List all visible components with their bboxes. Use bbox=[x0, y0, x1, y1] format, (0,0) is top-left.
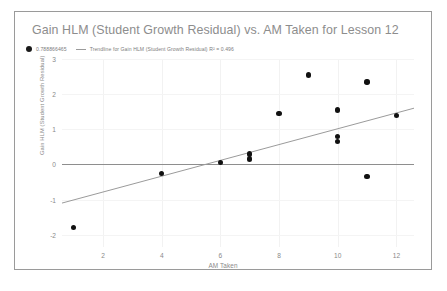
x-axis-tick-label: 8 bbox=[277, 252, 281, 259]
x-axis-title: AM Taken bbox=[15, 262, 431, 269]
y-axis-tick-label: -2 bbox=[50, 231, 56, 238]
legend-entry-series[interactable]: 0.788866465 bbox=[26, 46, 67, 52]
plot-area: 246810123210-1-2 bbox=[62, 59, 414, 247]
data-point[interactable] bbox=[306, 72, 311, 77]
legend-dot-icon bbox=[26, 46, 32, 52]
y-axis-tick-label: 3 bbox=[52, 56, 56, 63]
y-axis-tick-label: 1 bbox=[52, 126, 56, 133]
chart-legend: 0.788866465 Trendline for Gain HLM (Stud… bbox=[26, 46, 234, 52]
y-axis-tick-label: -1 bbox=[50, 196, 56, 203]
y-axis-tick-label: 2 bbox=[52, 91, 56, 98]
data-point[interactable] bbox=[394, 113, 399, 118]
chart-card: Gain HLM (Student Growth Residual) vs. A… bbox=[14, 11, 432, 270]
y-axis-tick-label: 0 bbox=[52, 161, 56, 168]
legend-line-icon bbox=[76, 49, 86, 50]
trendline bbox=[62, 59, 414, 247]
chart-title: Gain HLM (Student Growth Residual) vs. A… bbox=[32, 23, 399, 37]
data-point[interactable] bbox=[276, 111, 281, 116]
x-axis-tick-label: 6 bbox=[219, 252, 223, 259]
legend-entry-trendline[interactable]: Trendline for Gain HLM (Student Growth R… bbox=[76, 46, 234, 52]
x-axis-tick-label: 2 bbox=[101, 252, 105, 259]
legend-label-trendline: Trendline for Gain HLM (Student Growth R… bbox=[90, 46, 234, 52]
x-axis-tick-label: 4 bbox=[160, 252, 164, 259]
y-axis-title: Gain HLM (Student Growth Residual) bbox=[39, 56, 45, 155]
legend-label-series: 0.788866465 bbox=[36, 46, 67, 52]
data-point[interactable] bbox=[364, 79, 369, 84]
x-axis-tick-label: 12 bbox=[393, 252, 400, 259]
x-axis-tick-label: 10 bbox=[334, 252, 341, 259]
